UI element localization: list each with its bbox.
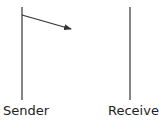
sender-label: Sender [3, 104, 49, 117]
message-arrow [22, 15, 71, 29]
receiver-label: Receiver [108, 104, 159, 117]
